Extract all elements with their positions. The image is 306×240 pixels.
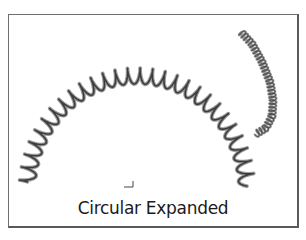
diagram-caption: Circular Expanded	[0, 198, 306, 218]
large-circular-spring	[20, 68, 254, 186]
axis-marker-icon	[124, 181, 133, 187]
small-compressed-spring	[239, 31, 276, 137]
